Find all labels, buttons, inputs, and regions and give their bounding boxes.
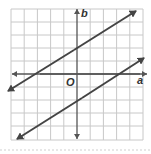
b-axis-label: b bbox=[81, 7, 88, 19]
lines bbox=[8, 11, 144, 139]
origin-label: O bbox=[66, 76, 75, 88]
coordinate-plane: b a O bbox=[0, 0, 151, 154]
lower-line bbox=[82, 58, 144, 98]
axes bbox=[12, 9, 147, 139]
a-axis-label: a bbox=[137, 74, 143, 86]
